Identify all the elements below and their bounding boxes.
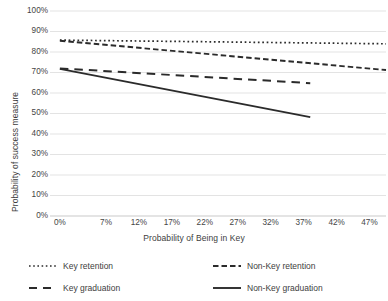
long-dashed-line-swatch-icon xyxy=(28,283,58,293)
legend-item-key-graduation[interactable]: Key graduation xyxy=(28,278,120,298)
x-axis-title: Probability of Being in Key xyxy=(0,233,388,243)
legend-item-nonkey-graduation[interactable]: Non-Key graduation xyxy=(212,278,323,298)
legend-label: Key graduation xyxy=(63,283,120,293)
dotted-line-swatch-icon xyxy=(28,261,58,271)
legend-item-nonkey-retention[interactable]: Non-Key retention xyxy=(212,256,316,276)
x-tick-label: 0% xyxy=(40,218,80,227)
series-line xyxy=(60,41,386,70)
x-tick-label: 47% xyxy=(350,218,388,227)
legend-item-key-retention[interactable]: Key retention xyxy=(28,256,113,276)
solid-line-swatch-icon xyxy=(212,283,242,293)
dashed-line-swatch-icon xyxy=(212,261,242,271)
series-line xyxy=(60,40,386,44)
legend-label: Non-Key retention xyxy=(247,261,316,271)
line-chart: Probability of success measure 0%10%20%3… xyxy=(0,0,388,301)
legend-label: Non-Key graduation xyxy=(247,283,323,293)
chart-legend: Key retention Key graduation Non-Key ret… xyxy=(0,256,388,301)
legend-label: Key retention xyxy=(63,261,113,271)
